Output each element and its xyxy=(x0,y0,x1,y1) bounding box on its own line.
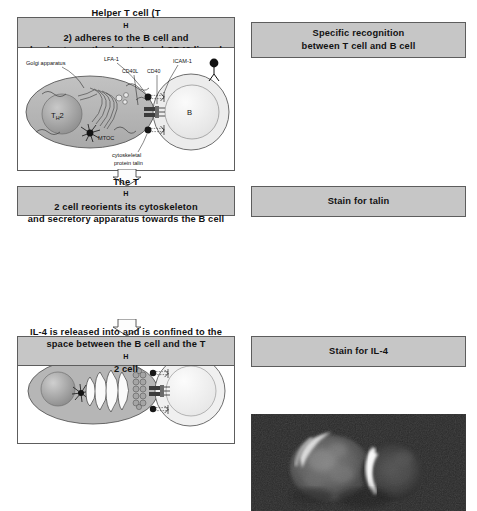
surface-receptor-icon xyxy=(209,59,219,81)
micrograph-1-svg xyxy=(252,414,465,511)
cd40-label: CD40 xyxy=(147,68,160,74)
step-3-caption-line-2: space between the B cell and the TH2 cel… xyxy=(30,338,222,375)
step-3-caption: IL-4 is released into and is confined to… xyxy=(17,336,235,366)
micrograph-1-caption: Specific recognition between T cell and … xyxy=(251,22,466,58)
t-cell-nucleus xyxy=(41,372,75,406)
step-2-caption-line-1: The TH2 cell reorients its cytoskeleton xyxy=(28,176,224,213)
figure-root: Helper T cell (TH2) adheres to the B cel… xyxy=(0,0,477,511)
step-2-caption-line-2: and secretory apparatus towards the B ce… xyxy=(28,213,224,225)
talin-label-line-1: cytoskeletal xyxy=(112,152,141,158)
step-1-cell-diagram-svg: TH2 B xyxy=(18,48,234,169)
micrograph-2-caption: Stain for talin xyxy=(251,186,466,217)
talin-label-line-2: protein talin xyxy=(114,160,143,166)
micrograph-1-caption-line-1: Specific recognition xyxy=(302,27,416,39)
micrograph-1-caption-line-2: between T cell and B cell xyxy=(302,40,416,52)
step-3-caption-line-1: IL-4 is released into and is confined to… xyxy=(30,326,222,338)
step-1-caption-line-1: Helper T cell (TH2) adheres to the B cel… xyxy=(30,7,222,44)
cd40l-label: CD40L xyxy=(122,68,138,74)
icam1-label: ICAM-1 xyxy=(173,58,192,64)
mtoc-label: MTOC xyxy=(98,135,114,141)
micrograph-1-image xyxy=(251,414,466,511)
micrograph-3-caption: Stain for IL-4 xyxy=(251,336,466,367)
golgi-label: Golgi apparatus xyxy=(26,60,66,66)
step-1-caption: Helper T cell (TH2) adheres to the B cel… xyxy=(17,17,235,48)
micrograph-3-caption-line-1: Stain for IL-4 xyxy=(329,345,388,357)
micrograph-2-caption-line-1: Stain for talin xyxy=(328,195,390,207)
lfa1-label: LFA-1 xyxy=(104,56,119,62)
b-cell-label: B xyxy=(187,108,192,117)
step-1-diagram: TH2 B xyxy=(17,48,235,171)
step-2-caption: The TH2 cell reorients its cytoskeleton … xyxy=(17,186,235,216)
